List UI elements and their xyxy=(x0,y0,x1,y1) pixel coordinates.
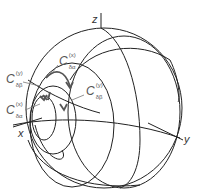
inner-circle-2 xyxy=(32,96,56,140)
label-c-delta-beta-y-left: C(y)δβ xyxy=(6,73,22,87)
y-axis-line xyxy=(148,123,183,140)
lower-arc-1 xyxy=(28,140,140,186)
label-c-delta-alpha-x-top: C(x)δα xyxy=(59,55,75,69)
y-axis-label: y xyxy=(184,134,190,145)
label-c-delta-alpha-x-bottom: C(x)δα xyxy=(6,104,22,118)
leader-right xyxy=(72,95,84,100)
meridian-large xyxy=(68,36,180,188)
label-c-delta-beta-y-right: C(y)δβ xyxy=(86,85,102,99)
z-axis-label: z xyxy=(92,14,98,25)
x-axis-label: x xyxy=(18,128,24,139)
lower-arc-2 xyxy=(35,125,64,159)
arrow-2 xyxy=(60,104,67,110)
